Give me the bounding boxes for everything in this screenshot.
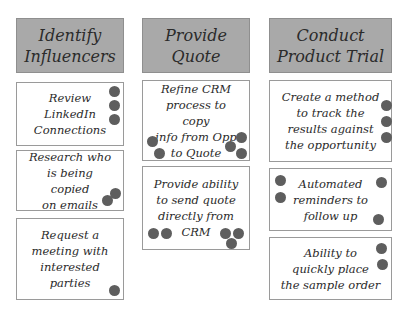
header-label: Provide Quote	[165, 25, 227, 67]
vote-dot-icon	[381, 100, 392, 111]
vote-dot-icon	[226, 238, 237, 249]
card-text: Review LinkedIn Connections	[34, 90, 106, 138]
vote-dot-icon	[275, 192, 286, 203]
vote-dot-icon	[381, 116, 392, 127]
vote-dot-icon	[373, 214, 384, 225]
card-text: Request a meeting with interested partie…	[32, 227, 109, 291]
vote-dot-icon	[148, 228, 159, 239]
vote-dot-icon	[275, 175, 286, 186]
vote-dot-icon	[225, 141, 236, 152]
vote-dot-icon	[161, 228, 172, 239]
header-identify-influencers: Identify Influencers	[16, 18, 124, 73]
card-refine-crm: Refine CRM process to copy info from Opp…	[142, 80, 250, 161]
card-request-meeting: Request a meeting with interested partie…	[16, 218, 124, 300]
vote-dot-icon	[109, 86, 120, 97]
vote-dot-icon	[236, 148, 247, 159]
card-text: Ability to quickly place the sample orde…	[281, 245, 381, 293]
vote-dot-icon	[154, 148, 165, 159]
vote-dot-icon	[109, 285, 120, 296]
card-review-linkedin: Review LinkedIn Connections	[16, 82, 124, 146]
vote-dot-icon	[376, 177, 387, 188]
vote-dot-icon	[102, 195, 113, 206]
card-send-quote: Provide ability to send quote directly f…	[142, 166, 250, 250]
vote-dot-icon	[147, 136, 158, 147]
vote-dot-icon	[376, 243, 387, 254]
vote-dot-icon	[381, 132, 392, 143]
vote-dot-icon	[377, 259, 388, 270]
header-label: Conduct Product Trial	[277, 25, 384, 67]
card-text: Research who is being copied on emails	[27, 149, 113, 213]
card-text: Automated reminders to follow up	[293, 176, 368, 224]
header-provide-quote: Provide Quote	[142, 18, 250, 73]
vote-dot-icon	[109, 100, 120, 111]
header-conduct-product-trial: Conduct Product Trial	[269, 18, 392, 73]
card-track-results: Create a method to track the results aga…	[269, 80, 392, 162]
card-automated-reminders: Automated reminders to follow up	[269, 168, 392, 231]
card-text: Create a method to track the results aga…	[282, 89, 380, 153]
card-sample-order: Ability to quickly place the sample orde…	[269, 237, 392, 300]
vote-dot-icon	[233, 228, 244, 239]
vote-dot-icon	[236, 132, 247, 143]
vote-dot-icon	[109, 114, 120, 125]
card-research-copied: Research who is being copied on emails	[16, 150, 124, 211]
header-label: Identify Influencers	[24, 25, 116, 67]
